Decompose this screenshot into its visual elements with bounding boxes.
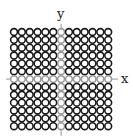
lattice-circle <box>11 29 18 36</box>
lattice-circle <box>66 60 73 67</box>
lattice-circle <box>50 107 57 114</box>
lattice-circle <box>105 99 112 106</box>
lattice-circle <box>105 36 112 43</box>
lattice-circle <box>26 60 33 67</box>
lattice-circle <box>81 115 88 122</box>
lattice-circle <box>18 123 25 130</box>
lattice-circle <box>11 36 18 43</box>
lattice-circle <box>105 123 112 130</box>
lattice-circle <box>34 52 41 59</box>
lattice-circle <box>18 84 25 91</box>
lattice-circle <box>105 52 112 59</box>
lattice-circle <box>105 84 112 91</box>
lattice-circle <box>81 44 88 51</box>
lattice-circle <box>42 29 49 36</box>
lattice-circle <box>11 68 18 75</box>
lattice-circle <box>26 36 33 43</box>
lattice-circle <box>50 44 57 51</box>
axis-lattice-circle <box>58 115 65 122</box>
lattice-circle <box>97 91 104 98</box>
lattice-circle <box>66 52 73 59</box>
lattice-circle <box>105 60 112 67</box>
lattice-circle <box>73 123 80 130</box>
lattice-circle <box>42 84 49 91</box>
lattice-circle <box>89 29 96 36</box>
lattice-circle <box>73 99 80 106</box>
lattice-circle <box>81 68 88 75</box>
axis-lattice-circle <box>42 76 49 83</box>
lattice-circle <box>18 36 25 43</box>
axis-lattice-circle <box>58 60 65 67</box>
lattice-circle <box>11 84 18 91</box>
lattice-circle <box>81 99 88 106</box>
lattice-circle <box>89 91 96 98</box>
axis-lattice-circle <box>58 44 65 51</box>
lattice-circle <box>89 123 96 130</box>
axis-lattice-circle <box>58 36 65 43</box>
lattice-circle <box>26 91 33 98</box>
lattice-circle <box>73 60 80 67</box>
lattice-circle <box>73 29 80 36</box>
axis-lattice-circle <box>66 76 73 83</box>
lattice-circle <box>26 29 33 36</box>
lattice-circle <box>66 68 73 75</box>
lattice-circle <box>89 99 96 106</box>
lattice-circle <box>97 52 104 59</box>
lattice-circle <box>73 91 80 98</box>
lattice-circle <box>50 115 57 122</box>
lattice-circle <box>73 36 80 43</box>
circle-lattice <box>0 0 133 137</box>
lattice-circle <box>97 44 104 51</box>
lattice-circle <box>11 115 18 122</box>
lattice-circle <box>11 44 18 51</box>
axis-lattice-circle <box>58 29 65 36</box>
lattice-circle <box>18 68 25 75</box>
lattice-circle <box>97 29 104 36</box>
lattice-circle <box>34 123 41 130</box>
lattice-circle <box>34 115 41 122</box>
axis-lattice-circle <box>58 52 65 59</box>
lattice-circle <box>97 84 104 91</box>
lattice-circle <box>50 36 57 43</box>
lattice-circle <box>26 115 33 122</box>
lattice-diagram: y x <box>0 0 133 137</box>
lattice-circle <box>73 107 80 114</box>
axis-lattice-circle <box>58 91 65 98</box>
lattice-circle <box>34 36 41 43</box>
lattice-circle <box>105 115 112 122</box>
lattice-circle <box>50 60 57 67</box>
lattice-circle <box>97 107 104 114</box>
lattice-circle <box>42 52 49 59</box>
lattice-circle <box>34 60 41 67</box>
lattice-circle <box>50 99 57 106</box>
lattice-circle <box>50 91 57 98</box>
lattice-circle <box>105 107 112 114</box>
lattice-circle <box>34 29 41 36</box>
lattice-circle <box>73 68 80 75</box>
lattice-circle <box>11 91 18 98</box>
lattice-circle <box>18 44 25 51</box>
axis-lattice-circle <box>18 76 25 83</box>
lattice-circle <box>66 99 73 106</box>
lattice-circle <box>73 84 80 91</box>
lattice-circle <box>81 29 88 36</box>
lattice-circle <box>97 60 104 67</box>
lattice-circle <box>26 84 33 91</box>
lattice-circle <box>42 91 49 98</box>
lattice-circle <box>18 60 25 67</box>
lattice-circle <box>89 107 96 114</box>
lattice-circle <box>105 29 112 36</box>
axis-lattice-circle <box>58 76 65 83</box>
lattice-circle <box>18 29 25 36</box>
lattice-circle <box>42 44 49 51</box>
lattice-circle <box>11 123 18 130</box>
axis-lattice-circle <box>97 76 104 83</box>
lattice-circle <box>97 36 104 43</box>
lattice-circle <box>26 123 33 130</box>
lattice-circle <box>66 123 73 130</box>
lattice-circle <box>26 107 33 114</box>
lattice-circle <box>81 36 88 43</box>
lattice-circle <box>97 123 104 130</box>
lattice-circle <box>81 84 88 91</box>
lattice-circle <box>11 99 18 106</box>
